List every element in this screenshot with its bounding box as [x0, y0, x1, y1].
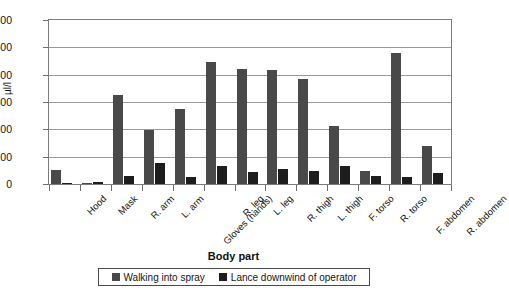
- bar: [62, 183, 72, 184]
- bar: [51, 170, 61, 184]
- bar: [175, 109, 185, 184]
- y-tick-label: 500: [0, 42, 12, 52]
- y-tick-label: 200: [0, 124, 12, 134]
- bar: [422, 146, 432, 184]
- bar: [433, 173, 443, 184]
- x-tick-mark: [235, 185, 236, 191]
- x-tick-mark: [420, 185, 421, 191]
- x-tick-mark: [265, 185, 266, 191]
- x-tick-mark: [204, 185, 205, 191]
- bar-group: [204, 20, 235, 184]
- bar: [113, 95, 123, 184]
- bar: [93, 182, 103, 184]
- x-tick-mark: [451, 185, 452, 191]
- bar-group: [420, 20, 451, 184]
- bar-group: [327, 20, 358, 184]
- x-tick-label: L. leg: [271, 193, 295, 217]
- legend-swatch-icon: [112, 273, 120, 281]
- bar-group: [142, 20, 173, 184]
- x-axis-title: Body part: [0, 250, 467, 262]
- bar: [371, 176, 381, 184]
- x-tick-mark: [49, 185, 50, 191]
- bar-group: [389, 20, 420, 184]
- y-tick-label: 100: [0, 152, 12, 162]
- bar-group: [265, 20, 296, 184]
- x-tick-mark: [80, 185, 81, 191]
- bar-group: [173, 20, 204, 184]
- bar: [402, 177, 412, 184]
- bar-group: [49, 20, 80, 184]
- x-tick-mark: [173, 185, 174, 191]
- bar: [237, 69, 247, 184]
- x-tick-label: R. torso: [397, 193, 428, 224]
- bar: [267, 70, 277, 184]
- bar: [248, 172, 258, 184]
- legend-label: Walking into spray: [124, 272, 205, 283]
- legend-item-lance-downwind-of-operator: Lance downwind of operator: [219, 272, 357, 283]
- bar: [360, 171, 370, 184]
- x-tick-mark: [142, 185, 143, 191]
- legend-swatch-icon: [219, 273, 227, 281]
- bar: [206, 62, 216, 184]
- x-tick-mark: [358, 185, 359, 191]
- bar: [309, 171, 319, 184]
- bar: [391, 53, 401, 184]
- y-tick-label: 0: [0, 179, 12, 189]
- bar: [217, 166, 227, 184]
- y-tick-label: 600: [0, 15, 12, 25]
- y-axis-title: µl/l: [2, 82, 13, 95]
- y-tick-label: 400: [0, 70, 12, 80]
- bar: [329, 126, 339, 184]
- bar: [298, 79, 308, 184]
- x-tick-label: Gloves (hands): [221, 193, 274, 246]
- bar-group: [80, 20, 111, 184]
- x-tick-label: L. thigh: [335, 193, 365, 223]
- x-tick-mark: [327, 185, 328, 191]
- x-tick-mark: [111, 185, 112, 191]
- bar-group: [235, 20, 266, 184]
- legend-label: Lance downwind of operator: [231, 272, 357, 283]
- chart-legend: Walking into spray Lance downwind of ope…: [98, 268, 370, 286]
- x-tick-label: Hood: [85, 193, 109, 217]
- x-tick-label: R. arm: [149, 193, 177, 221]
- x-tick-label: Mask: [116, 193, 140, 217]
- x-tick-label: F. torso: [366, 193, 396, 223]
- bar: [155, 163, 165, 184]
- legend-item-walking-into-spray: Walking into spray: [112, 272, 205, 283]
- bar: [124, 176, 134, 184]
- bars-layer: [49, 20, 451, 184]
- bar: [82, 183, 92, 184]
- bar: [144, 130, 154, 184]
- bar-group: [111, 20, 142, 184]
- bar: [186, 177, 196, 184]
- x-tick-label: R. thigh: [304, 193, 335, 224]
- x-tick-mark: [389, 185, 390, 191]
- y-tick-label: 300: [0, 97, 12, 107]
- bar-group: [296, 20, 327, 184]
- bar: [278, 169, 288, 184]
- bar: [340, 166, 350, 184]
- bar-group: [358, 20, 389, 184]
- x-tick-mark: [296, 185, 297, 191]
- x-tick-label: L. arm: [179, 193, 206, 220]
